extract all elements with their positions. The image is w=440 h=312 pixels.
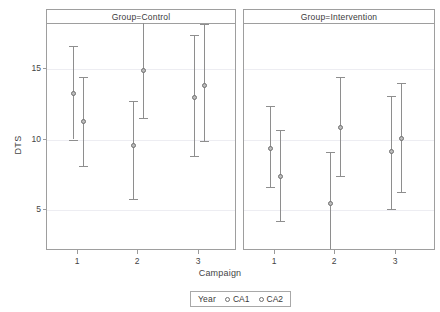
y-tick-label: 15: [19, 63, 41, 73]
error-bar-cap: [266, 187, 275, 188]
error-bar-cap: [69, 46, 78, 47]
error-bar-cap: [387, 96, 396, 97]
legend: Year CA1 CA2: [190, 291, 291, 307]
error-bar-cap: [79, 166, 88, 167]
error-bar-cap: [129, 199, 138, 200]
error-bar-cap: [276, 130, 285, 131]
data-point[interactable]: [202, 83, 207, 88]
data-point[interactable]: [81, 119, 86, 124]
panel-header-label: Group=Intervention: [244, 10, 434, 24]
plot-area: [244, 23, 434, 249]
x-tick-mark: [334, 250, 335, 254]
data-point[interactable]: [328, 201, 333, 206]
x-tick-label: 1: [67, 256, 87, 266]
data-point[interactable]: [192, 95, 197, 100]
error-bar: [133, 101, 134, 198]
error-bar-cap: [139, 118, 148, 119]
data-point[interactable]: [141, 68, 146, 73]
error-bar-cap: [276, 221, 285, 222]
panel-group-control: Group=Control: [46, 9, 236, 250]
error-bar-cap: [79, 77, 88, 78]
x-tick-label: 1: [264, 256, 284, 266]
error-bar-cap: [336, 176, 345, 177]
grid-line: [244, 69, 434, 70]
error-bar-cap: [326, 152, 335, 153]
error-bar-cap: [336, 77, 345, 78]
error-bar-cap: [129, 101, 138, 102]
data-point[interactable]: [338, 125, 343, 130]
x-tick-mark: [274, 250, 275, 254]
x-tick-label: 3: [188, 256, 208, 266]
error-bar-cap: [190, 156, 199, 157]
y-tick-label: 10: [19, 134, 41, 144]
open-circle-icon: [225, 297, 230, 302]
error-bar-cap: [200, 141, 209, 142]
error-bar-cap: [387, 209, 396, 210]
legend-item-ca2[interactable]: CA2: [259, 294, 284, 304]
grid-line: [47, 210, 235, 211]
y-tick-label: 5: [19, 204, 41, 214]
error-bar-cap: [397, 192, 406, 193]
x-tick-label: 2: [324, 256, 344, 266]
grid-line: [244, 210, 434, 211]
panel-header-label: Group=Control: [47, 10, 235, 24]
panel-group-intervention: Group=Intervention: [243, 9, 435, 250]
x-tick-mark: [395, 250, 396, 254]
x-axis-title: Campaign: [0, 268, 440, 278]
grid-line: [244, 140, 434, 141]
data-point[interactable]: [268, 146, 273, 151]
legend-item-ca1[interactable]: CA1: [225, 294, 250, 304]
data-point[interactable]: [278, 174, 283, 179]
data-point[interactable]: [131, 143, 136, 148]
legend-title: Year: [198, 294, 216, 304]
x-tick-label: 2: [127, 256, 147, 266]
x-tick-mark: [77, 250, 78, 254]
error-bar-cap: [69, 140, 78, 141]
x-tick-label: 3: [385, 256, 405, 266]
x-tick-mark: [137, 250, 138, 254]
chart-figure: DTS 51015 Group=Control Group=Interventi…: [0, 0, 440, 312]
data-point[interactable]: [389, 149, 394, 154]
x-tick-mark: [198, 250, 199, 254]
plot-area: [47, 23, 235, 249]
open-circle-icon: [259, 297, 264, 302]
data-point[interactable]: [71, 91, 76, 96]
error-bar-cap: [266, 106, 275, 107]
error-bar-cap: [200, 24, 209, 25]
legend-item-label: CA1: [233, 294, 250, 304]
error-bar-cap: [397, 83, 406, 84]
legend-item-label: CA2: [267, 294, 284, 304]
error-bar-cap: [190, 35, 199, 36]
y-axis-title: DTS: [13, 115, 23, 175]
